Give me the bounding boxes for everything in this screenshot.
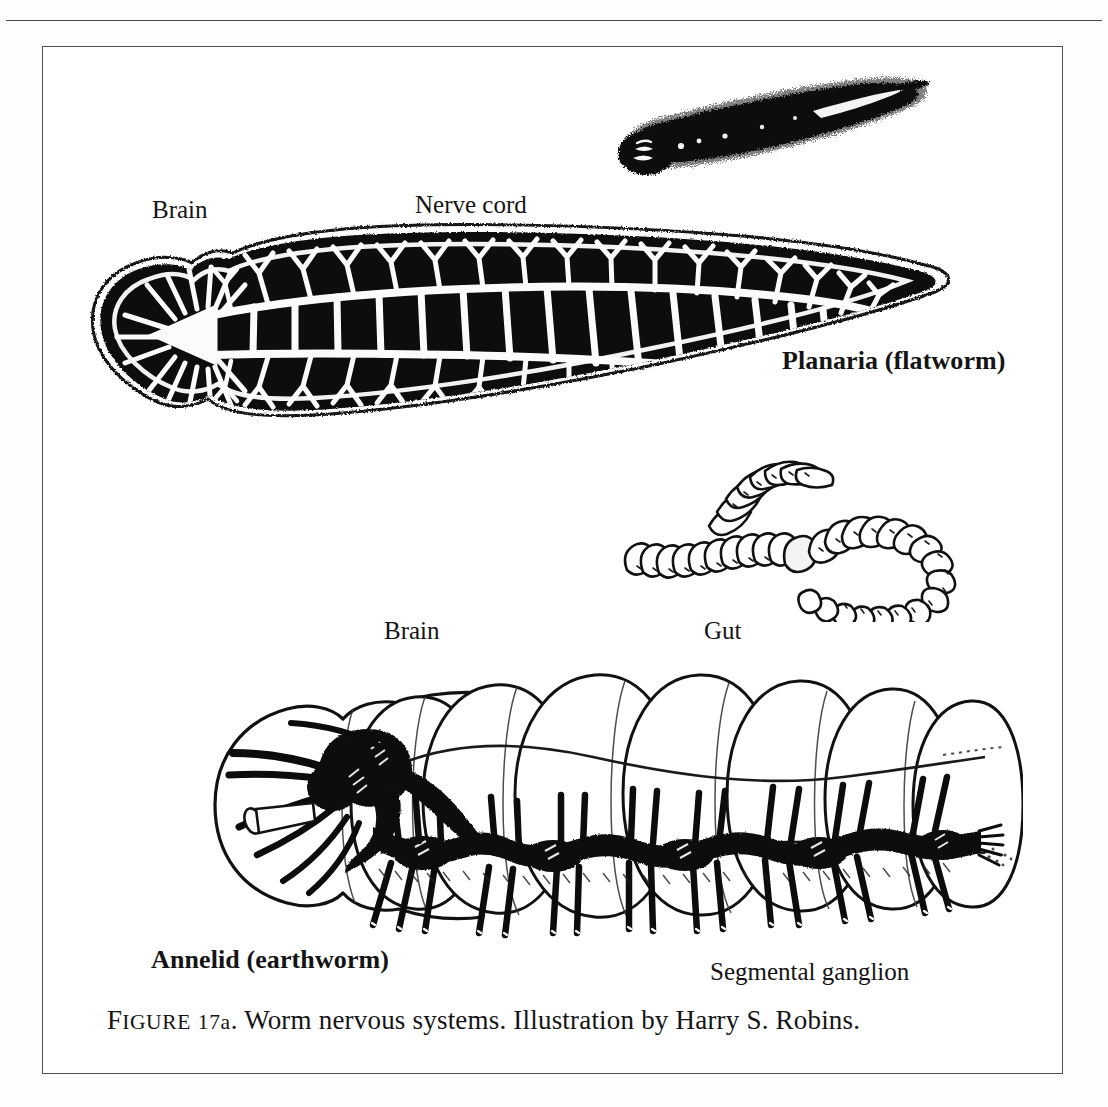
figure-frame: Brain Nerve cord Planaria (flatworm) Bra… [42,46,1063,1074]
caption-title: Worm nervous systems. [244,1005,506,1035]
label-brain-planaria: Brain [152,197,208,222]
caption-prefix-initial: F [107,1005,122,1035]
label-brain-annelid: Brain [384,618,440,643]
figure-caption: FIGURE 17a. Worm nervous systems. Illust… [107,1005,860,1036]
book-page: Brain Nerve cord Planaria (flatworm) Bra… [0,0,1108,1107]
planaria-habitus-illustration [599,61,959,191]
label-annelid-earthworm: Annelid (earthworm) [151,947,389,973]
label-planaria-flatworm: Planaria (flatworm) [782,348,1006,374]
running-head-rule [6,20,1102,21]
label-segmental-ganglion: Segmental ganglion [710,959,909,984]
earthworm-habitus-illustration [613,442,963,622]
caption-number: 17a [198,1010,231,1034]
label-gut: Gut [704,618,742,643]
label-nerve-cord: Nerve cord [415,192,527,217]
caption-credit: Illustration by Harry S. Robins. [513,1005,860,1035]
annelid-nervous-system-illustration [123,617,1023,992]
caption-prefix-rest: IGURE [122,1010,191,1034]
planaria-nervous-system-illustration [63,207,953,457]
caption-period: . [231,1005,238,1035]
figure-content: Brain Nerve cord Planaria (flatworm) Bra… [43,47,1062,1073]
